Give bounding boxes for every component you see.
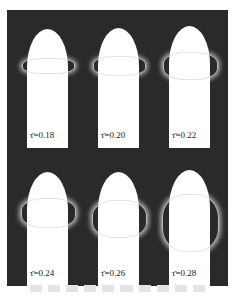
panel-label: τ̄=0.18 xyxy=(7,130,77,140)
panel-5: τ̄=0.26 xyxy=(78,148,148,286)
figure-row-top: τ̄=0.18 τ̄=0.20 τ̄=0.22 xyxy=(7,10,228,148)
panel-6: τ̄=0.28 xyxy=(149,148,219,286)
figure-row-bottom: τ̄=0.24 τ̄=0.26 τ̄=0.28 xyxy=(7,148,228,286)
cavity-glow xyxy=(93,56,146,76)
panel-label: τ̄=0.26 xyxy=(78,268,148,278)
cavity-glow xyxy=(22,58,75,74)
panel-1: τ̄=0.18 xyxy=(7,10,77,148)
cavity-glow xyxy=(163,52,218,80)
panel-label: τ̄=0.24 xyxy=(7,268,77,278)
cavity-glow xyxy=(92,200,147,238)
panel-label: τ̄=0.28 xyxy=(149,268,219,278)
panel-3: τ̄=0.22 xyxy=(149,10,219,148)
figure-caption xyxy=(30,285,205,293)
panel-label: τ̄=0.22 xyxy=(149,130,219,140)
panel-label: τ̄=0.20 xyxy=(78,130,148,140)
panel-2: τ̄=0.20 xyxy=(78,10,148,148)
cavity-glow xyxy=(21,198,76,228)
panel-4: τ̄=0.24 xyxy=(7,148,77,286)
cavity-glow xyxy=(162,194,219,252)
